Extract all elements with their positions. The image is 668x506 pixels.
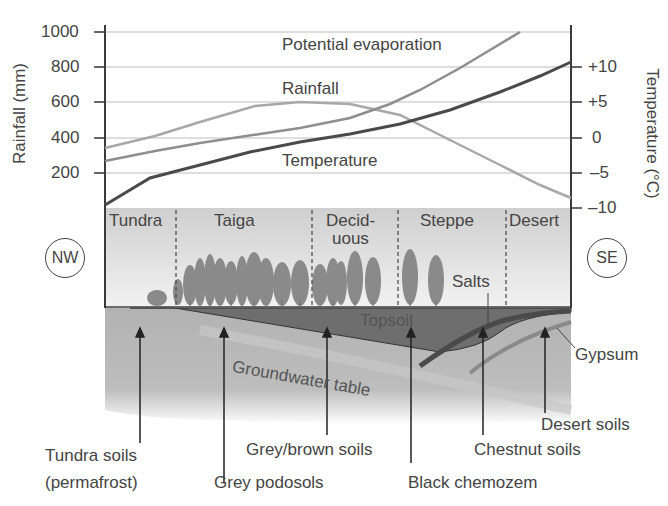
- left-tick-1000: 1000: [41, 23, 79, 40]
- evaporation-label: Potential evaporation: [282, 36, 442, 53]
- left-tick-400: 400: [51, 129, 79, 146]
- right-tick-plus10: +10: [588, 58, 617, 75]
- gypsum-label: Gypsum: [575, 346, 638, 363]
- left-tick-800: 800: [51, 58, 79, 75]
- temperature-label: Temperature: [282, 152, 377, 169]
- left-tick-600: 600: [51, 93, 79, 110]
- tundra-soils-label: Tundra soils: [45, 447, 137, 464]
- rainfall-line: [105, 102, 571, 198]
- zone-tundra: Tundra: [109, 212, 162, 229]
- right-tick-plus5: +5: [588, 93, 607, 110]
- chestnut-soils-label: Chestnut soils: [474, 441, 581, 458]
- tundra-soils-sub-label: (permafrost): [45, 474, 138, 491]
- compass-nw: NW: [45, 238, 85, 278]
- right-tick-minus5: –5: [590, 164, 609, 181]
- compass-se: SE: [587, 238, 627, 278]
- zone-taiga: Taiga: [214, 212, 255, 229]
- zone-desert: Desert: [509, 212, 559, 229]
- black-chernozem-label: Black chemozem: [408, 474, 537, 491]
- grey-brown-soils-label: Grey/brown soils: [246, 441, 373, 458]
- salts-label: Salts: [452, 273, 490, 290]
- topsoil-label: Topsoil: [360, 312, 413, 329]
- left-axis-label: Rainfall (mm): [11, 59, 28, 169]
- zone-deciduous-1: Decid-: [326, 212, 375, 229]
- zone-deciduous-2: uous: [332, 230, 369, 247]
- zone-steppe: Steppe: [420, 212, 474, 229]
- desert-soils-label: Desert soils: [541, 416, 630, 433]
- right-tick-minus10: –10: [588, 199, 616, 216]
- right-axis-label: Temperature (°C): [644, 64, 661, 204]
- left-tick-200: 200: [51, 164, 79, 181]
- grey-podosols-label: Grey podosols: [214, 474, 324, 491]
- rainfall-label: Rainfall: [282, 80, 339, 97]
- right-tick-0: 0: [592, 129, 601, 146]
